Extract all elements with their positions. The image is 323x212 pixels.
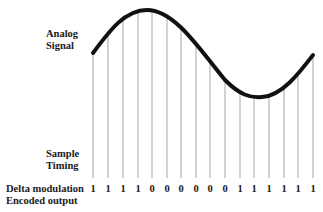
encoded-bit: 1 [135, 183, 140, 194]
encoded-bit: 1 [251, 183, 256, 194]
analog-signal-curve [93, 10, 313, 97]
encoded-bit: 1 [310, 183, 315, 194]
encoded-bit: 1 [105, 183, 110, 194]
encoded-bit: 1 [266, 183, 271, 194]
encoded-bit: 0 [149, 183, 154, 194]
encoded-output-bits: 1111000000111111 [90, 183, 315, 194]
encoded-bit: 0 [207, 183, 212, 194]
encoded-bit: 0 [222, 183, 227, 194]
encoded-bit: 0 [178, 183, 183, 194]
encoded-bit: 0 [164, 183, 169, 194]
delta-modulation-diagram: 1111000000111111 [0, 0, 323, 212]
encoded-bit: 1 [281, 183, 286, 194]
sample-timing-lines [93, 10, 313, 178]
encoded-bit: 0 [193, 183, 198, 194]
encoded-bit: 1 [90, 183, 95, 194]
encoded-bit: 1 [237, 183, 242, 194]
encoded-bit: 1 [120, 183, 125, 194]
encoded-bit: 1 [295, 183, 300, 194]
